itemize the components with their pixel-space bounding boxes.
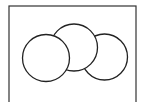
venn-diagram-canvas bbox=[0, 0, 143, 102]
circle-left bbox=[23, 35, 70, 82]
